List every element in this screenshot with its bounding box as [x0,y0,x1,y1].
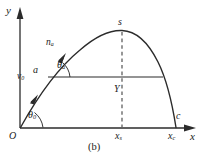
initial-velocity-label: v0 [17,72,24,82]
projectile-trajectory-figure: y x O s a c Y v0 na θ0 θa xs xc (b) [0,0,203,157]
launch-angle-label: θ0 [28,110,36,121]
angle-at-a-label: θa [57,60,65,71]
x-tick-apex-subscript: s [119,134,121,141]
trajectory-curve [21,30,177,127]
y-axis-arrowhead [17,7,24,19]
initial-velocity-subscript: 0 [21,75,24,81]
point-a-label: a [33,65,38,75]
y-axis-label: y [6,5,11,16]
y-axis [17,7,24,128]
x-tick-landing-subscript: c [172,134,175,141]
velocity-at-a-label: na [46,38,54,48]
origin-label: O [9,131,16,141]
figure-caption: (b) [88,142,100,153]
x-tick-landing-label: xc [168,131,175,142]
x-tick-apex-label: xs [115,131,122,142]
apex-point-label: s [118,17,122,27]
angle-at-a-subscript: a [62,63,65,70]
landing-point-label: c [176,111,180,121]
velocity-at-a-subscript: a [51,41,54,47]
x-axis-label: x [190,131,195,142]
launch-angle-subscript: 0 [33,113,36,120]
height-measure-label: Y [114,84,120,94]
